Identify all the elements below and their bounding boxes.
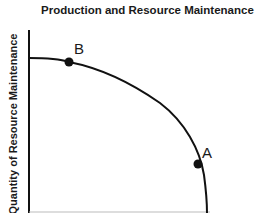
ppf-curve: [29, 58, 207, 213]
point-b-marker: [65, 58, 74, 67]
point-a-label: A: [202, 144, 212, 161]
chart-plot: [0, 0, 259, 213]
point-b-label: B: [74, 40, 84, 57]
